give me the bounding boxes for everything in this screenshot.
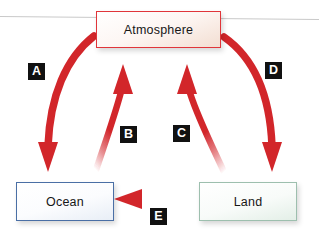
arrow-a bbox=[38, 36, 94, 172]
node-land-label: Land bbox=[234, 195, 263, 209]
node-atmosphere[interactable]: Atmosphere bbox=[96, 11, 221, 48]
carbon-cycle-diagram: Atmosphere Ocean Land A B C D E bbox=[0, 0, 319, 247]
node-land[interactable]: Land bbox=[199, 182, 297, 221]
node-ocean-label: Ocean bbox=[46, 195, 84, 209]
arrow-c bbox=[177, 64, 224, 172]
arrow-b bbox=[96, 64, 133, 170]
arrow-e bbox=[114, 189, 196, 209]
arrow-label-a: A bbox=[28, 63, 45, 80]
arrow-label-c: C bbox=[173, 125, 190, 142]
node-atmosphere-label: Atmosphere bbox=[124, 23, 193, 37]
arrow-label-e: E bbox=[150, 208, 167, 225]
arrow-d bbox=[224, 37, 282, 172]
arrow-label-b: B bbox=[120, 126, 137, 143]
arrow-label-d: D bbox=[265, 62, 282, 79]
node-ocean[interactable]: Ocean bbox=[16, 182, 114, 221]
